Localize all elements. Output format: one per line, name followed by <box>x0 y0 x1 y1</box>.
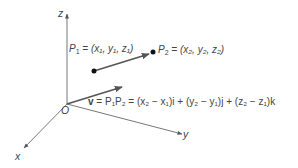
vector-p1p2-arrow <box>94 54 149 71</box>
y-axis <box>67 104 182 134</box>
x-axis-label: x <box>15 150 20 162</box>
p2-name: P <box>158 44 165 55</box>
vector-symbol: v <box>88 96 94 107</box>
equation-text: = P₁P₂ = (x₂ − x₁)i + (y₂ − y₁)j + (z₂ −… <box>96 96 275 107</box>
origin-label: O <box>61 104 69 116</box>
p2-sub: 2 <box>165 49 169 56</box>
p1-sub: 1 <box>76 48 80 55</box>
point-p2 <box>151 50 156 55</box>
z-axis-label: z <box>58 7 63 19</box>
p2-label: P2 = (x₂, y₂, z₂) <box>158 44 224 56</box>
point-p1 <box>92 69 97 74</box>
p1-coords: = (x₁, y₁, z₁) <box>82 43 133 54</box>
p1-label: P1 = (x₁, y₁, z₁) <box>69 43 133 55</box>
p1-name: P <box>69 43 76 54</box>
axes-graphic <box>0 0 298 168</box>
vector-diagram: z y x O P1 = (x₁, y₁, z₁) P2 = (x₂, y₂, … <box>0 0 298 168</box>
y-axis-label: y <box>183 128 188 140</box>
p2-coords: = (x₂, y₂, z₂) <box>171 44 224 55</box>
vector-equation: v = P₁P₂ = (x₂ − x₁)i + (y₂ − y₁)j + (z₂… <box>88 96 275 107</box>
